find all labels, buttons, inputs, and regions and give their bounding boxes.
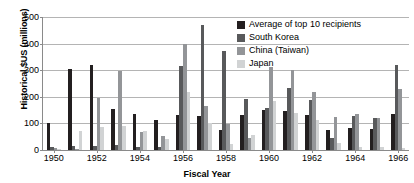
x-tick-label: 1958 xyxy=(216,154,236,163)
x-tick-label: 1964 xyxy=(345,154,365,163)
x-tick-label: 1954 xyxy=(130,154,150,163)
bar xyxy=(208,123,212,150)
legend-swatch-icon xyxy=(237,21,245,29)
bar xyxy=(122,126,126,150)
bar xyxy=(165,139,169,150)
bar-chart: Historical $US (millions) 01002003004005… xyxy=(0,0,414,183)
bar xyxy=(47,123,51,150)
bar xyxy=(251,135,255,150)
bar-group xyxy=(151,17,173,150)
legend-item: South Korea xyxy=(237,31,413,44)
y-tick-label: 100 xyxy=(24,119,39,128)
bar xyxy=(90,65,94,150)
y-tick-label: 200 xyxy=(24,92,39,101)
bar xyxy=(111,109,115,150)
y-tick-label: 300 xyxy=(24,66,39,75)
legend-swatch-icon xyxy=(237,60,245,68)
legend-label: Average of top 10 recipients xyxy=(249,20,361,29)
y-tick-label: 400 xyxy=(24,39,39,48)
x-tick-label: 1950 xyxy=(44,154,64,163)
y-tick-label: 0 xyxy=(34,146,39,155)
bar xyxy=(316,120,320,150)
x-tick-label: 1952 xyxy=(87,154,107,163)
bar xyxy=(133,114,137,150)
legend-label: South Korea xyxy=(249,33,299,42)
bar xyxy=(57,149,61,150)
bar xyxy=(355,114,359,150)
x-tick-label: 1966 xyxy=(388,154,408,163)
bar xyxy=(377,118,381,150)
bar xyxy=(68,69,72,150)
bar xyxy=(230,144,234,150)
x-tick-label: 1962 xyxy=(302,154,322,163)
bar-group xyxy=(172,17,194,150)
bar xyxy=(359,147,363,150)
bar-group xyxy=(215,17,237,150)
legend-label: Japan xyxy=(249,59,274,68)
bar-group xyxy=(86,17,108,150)
bar xyxy=(398,89,402,150)
legend-item: Average of top 10 recipients xyxy=(237,18,413,31)
bar xyxy=(337,143,341,150)
y-tick-label: 500 xyxy=(24,13,39,22)
y-tick-mark xyxy=(40,150,43,151)
bar xyxy=(273,101,277,150)
legend-swatch-icon xyxy=(237,47,245,55)
chart-legend: Average of top 10 recipientsSouth KoreaC… xyxy=(237,18,413,70)
bar-group xyxy=(194,17,216,150)
bar xyxy=(187,92,191,150)
x-tick-label: 1956 xyxy=(173,154,193,163)
legend-label: China (Taiwan) xyxy=(249,46,309,55)
bar-group xyxy=(108,17,130,150)
bar xyxy=(79,131,83,150)
bar xyxy=(380,147,384,150)
legend-item: Japan xyxy=(237,57,413,70)
x-axis-title: Fiscal Year xyxy=(0,170,414,179)
legend-item: China (Taiwan) xyxy=(237,44,413,57)
legend-swatch-icon xyxy=(237,34,245,42)
bar-group xyxy=(129,17,151,150)
bar xyxy=(154,120,158,150)
x-tick-label: 1960 xyxy=(259,154,279,163)
bar xyxy=(100,127,104,150)
bar-group xyxy=(43,17,65,150)
bar-group xyxy=(65,17,87,150)
bar xyxy=(294,113,298,150)
bar xyxy=(143,131,147,150)
bar xyxy=(402,148,406,150)
